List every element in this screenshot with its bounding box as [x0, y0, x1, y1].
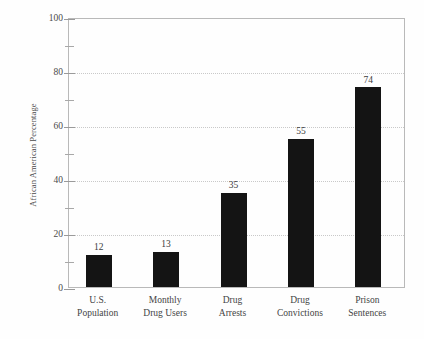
plot-area: 020406080100 1213355574: [68, 18, 405, 288]
x-axis-category-line: Prison: [319, 294, 415, 307]
x-axis-category-line: Sentences: [319, 307, 415, 320]
bar-value-label: 55: [296, 127, 306, 137]
y-tick-minor-50: [65, 154, 74, 155]
bar: 74: [355, 87, 381, 287]
y-tick-label-40: 40: [54, 176, 64, 186]
y-tick-label-100: 100: [49, 14, 63, 24]
y-tick-label-60: 60: [54, 122, 64, 132]
y-tick-major-40: [64, 181, 75, 182]
y-tick-minor-90: [65, 46, 74, 47]
x-axis-category-label: PrisonSentences: [319, 294, 415, 319]
bar-value-label: 13: [161, 240, 171, 250]
y-tick-label-80: 80: [54, 68, 64, 78]
y-tick-major-100: [64, 19, 75, 20]
y-tick-major-60: [64, 127, 75, 128]
bar: 55: [288, 139, 314, 288]
gridline-80: [69, 73, 404, 74]
bar: 35: [221, 193, 247, 288]
bar-value-label: 12: [94, 243, 104, 253]
y-tick-label-0: 0: [58, 284, 63, 294]
y-tick-major-0: [64, 289, 75, 290]
bar: 12: [86, 255, 112, 287]
bar: 13: [153, 252, 179, 287]
bar-value-label: 35: [229, 181, 239, 191]
y-tick-label-20: 20: [54, 230, 64, 240]
y-tick-minor-70: [65, 100, 74, 101]
gridline-60: [69, 127, 404, 128]
y-tick-major-20: [64, 235, 75, 236]
bar-value-label: 74: [364, 76, 374, 86]
y-tick-major-80: [64, 73, 75, 74]
y-tick-minor-10: [65, 262, 74, 263]
chart-page: African American Percentage 020406080100…: [0, 0, 424, 339]
y-tick-minor-30: [65, 208, 74, 209]
y-axis-title: African American Percentage: [26, 40, 40, 270]
